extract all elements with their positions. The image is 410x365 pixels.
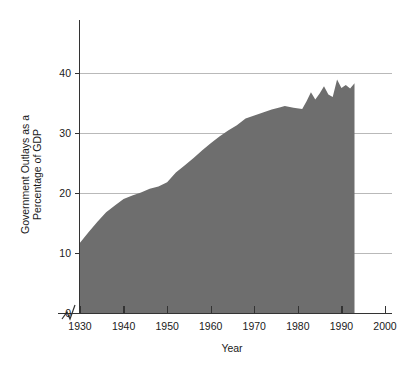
area-chart: 010203040 193019401950196019701980199020… [0,0,410,365]
government-outlays-area [80,80,355,313]
area-series-group [80,80,355,313]
y-tick-label-10: 10 [59,247,71,259]
y-tick-label-30: 30 [59,127,71,139]
x-tick-label-1960: 1960 [199,320,223,332]
x-tick-label-1970: 1970 [243,320,267,332]
y-axis-title-line-1: Government Outlays as a [19,115,31,234]
x-axis-title: Year [221,342,243,354]
y-tick-group: 010203040 [59,67,79,319]
x-tick-label-1990: 1990 [330,320,354,332]
y-axis-title-line-2: Percentage of GDP [31,129,43,220]
x-tick-label-2000: 2000 [373,320,397,332]
y-tick-label-20: 20 [59,187,71,199]
x-tick-label-1950: 1950 [155,320,179,332]
x-tick-label-1940: 1940 [112,320,136,332]
y-tick-label-40: 40 [59,67,71,79]
x-tick-label-1980: 1980 [286,320,310,332]
chart-figure: 010203040 193019401950196019701980199020… [0,0,410,365]
x-tick-label-1930: 1930 [68,320,92,332]
y-tick-label-0: 0 [65,307,71,319]
